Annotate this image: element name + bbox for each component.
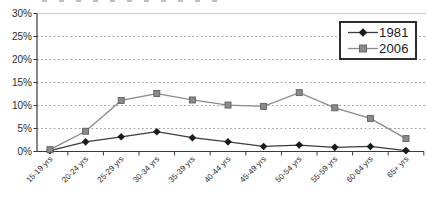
data-point-2006	[367, 115, 373, 121]
x-axis-label-group: 45-49 yrs	[238, 155, 268, 185]
data-point-2006	[332, 105, 338, 111]
x-axis-label-group: 20-24 yrs	[60, 155, 90, 185]
data-point-1981	[402, 147, 410, 155]
chart-legend: 1981 2006	[339, 21, 417, 60]
y-axis-tick-label: 20%	[12, 54, 32, 65]
data-point-1981	[367, 143, 375, 151]
age-distribution-line-chart: 0%5%10%15%20%25%30%15-19 yrs20-24 yrs25-…	[0, 0, 427, 200]
legend-label-1981: 1981	[379, 26, 409, 39]
y-axis-tick-label: 10%	[12, 100, 32, 111]
data-point-1981	[153, 128, 161, 136]
legend-label-2006: 2006	[379, 42, 409, 55]
data-point-1981	[224, 138, 232, 146]
data-point-1981	[295, 141, 303, 149]
x-axis-tick-label: 15-19 yrs	[24, 155, 54, 185]
x-axis-tick-label: 45-49 yrs	[238, 155, 268, 185]
data-point-2006	[47, 147, 53, 153]
x-axis-label-group: 25-29 yrs	[96, 155, 126, 185]
x-axis-label-group: 40-44 yrs	[202, 155, 232, 185]
data-point-2006	[118, 97, 124, 103]
data-point-2006	[154, 91, 160, 97]
x-axis-tick-label: 60-64 yrs	[345, 155, 375, 185]
legend-1981-diamond-icon	[347, 27, 379, 38]
x-axis-tick-label: 50-54 yrs	[274, 155, 304, 185]
x-axis-label-group: 30-34 yrs	[131, 155, 161, 185]
x-axis-label-group: 55-59 yrs	[309, 155, 339, 185]
x-axis-label-group: 50-54 yrs	[274, 155, 304, 185]
x-axis-label-group: 65+ yrs	[385, 155, 410, 180]
y-axis-tick-label: 25%	[12, 31, 32, 42]
x-axis-tick-label: 40-44 yrs	[202, 155, 232, 185]
data-point-2006	[189, 97, 195, 103]
x-axis-tick-label: 55-59 yrs	[309, 155, 339, 185]
data-point-2006	[403, 136, 409, 142]
data-point-1981	[189, 134, 197, 142]
legend-item-2006: 2006	[347, 41, 408, 56]
x-axis-tick-label: 65+ yrs	[385, 155, 410, 180]
data-point-2006	[261, 103, 267, 109]
y-axis-tick-label: 5%	[18, 123, 33, 134]
y-axis-tick-label: 15%	[12, 77, 32, 88]
x-axis-label-group: 60-64 yrs	[345, 155, 375, 185]
y-axis-tick-label: 0%	[18, 146, 33, 157]
data-point-1981	[331, 144, 339, 152]
data-point-2006	[83, 128, 89, 134]
x-axis-tick-label: 20-24 yrs	[60, 155, 90, 185]
x-axis-tick-label: 35-39 yrs	[167, 155, 197, 185]
x-axis-label-group: 35-39 yrs	[167, 155, 197, 185]
x-axis-tick-label: 25-29 yrs	[96, 155, 126, 185]
legend-item-1981: 1981	[347, 25, 408, 40]
data-point-2006	[225, 102, 231, 108]
data-point-1981	[117, 133, 125, 141]
data-point-1981	[82, 138, 90, 146]
data-point-1981	[260, 143, 268, 151]
y-axis-tick-label: 30%	[12, 8, 32, 19]
data-point-2006	[296, 90, 302, 96]
x-axis-label-group: 15-19 yrs	[24, 155, 54, 185]
legend-2006-square-icon	[347, 43, 379, 54]
x-axis-tick-label: 30-34 yrs	[131, 155, 161, 185]
